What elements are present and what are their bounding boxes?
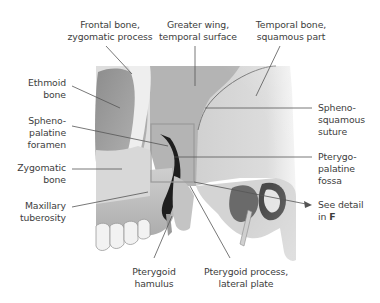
label-temporal-bone: Temporal bone, squamous part (246, 19, 336, 43)
label-pterygoid-hamulus: Pterygoid hamulus (118, 266, 190, 290)
label-frontal-bone: Frontal bone, zygomatic process (62, 19, 158, 43)
label-zygomatic-bone: Zygomatic bone (6, 162, 66, 186)
label-greater-wing: Greater wing, temporal surface (152, 19, 244, 43)
label-pterygopalatine-fossa: Pterygo- palatine fossa (318, 151, 378, 187)
figure-ref-F: F (329, 211, 335, 222)
label-maxillary-tuberosity: Maxillary tuberosity (6, 200, 66, 224)
label-pterygoid-lateral-plate: Pterygoid process, lateral plate (194, 266, 298, 290)
label-sphenopalatine-foramen: Spheno- palatine foramen (10, 115, 66, 151)
label-sphenosquamous-suture: Spheno- squamous suture (318, 102, 378, 138)
anatomy-figure: Frontal bone, zygomatic process Greater … (0, 0, 380, 303)
label-see-detail: See detail in F (318, 199, 380, 223)
label-ethmoid-bone: Ethmoid bone (10, 77, 66, 101)
arrowhead-icon (304, 201, 312, 208)
